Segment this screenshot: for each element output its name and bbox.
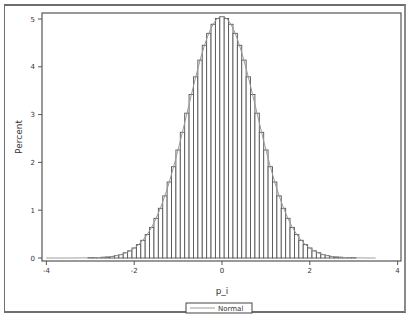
- histogram-bar: [176, 150, 180, 258]
- histogram-bar: [233, 33, 237, 258]
- histogram-bar: [211, 24, 215, 258]
- histogram-bar: [202, 45, 206, 258]
- histogram-bar: [136, 245, 140, 258]
- x-axis-label: p_i: [216, 286, 229, 296]
- x-tick-label: 2: [308, 267, 312, 275]
- y-axis-ticks: 012345: [31, 16, 42, 263]
- histogram-bar: [215, 19, 219, 258]
- histogram-bar: [224, 19, 228, 258]
- x-tick-label: -4: [43, 267, 51, 275]
- histogram-bar: [237, 45, 241, 258]
- histogram-bar: [290, 227, 294, 258]
- histogram-bar: [286, 218, 290, 258]
- histogram-bar: [150, 227, 154, 258]
- histogram-bar: [277, 196, 281, 258]
- histogram-bar: [303, 245, 307, 258]
- y-tick-label: 0: [31, 255, 35, 263]
- y-axis-label: Percent: [14, 120, 24, 154]
- x-tick-label: -2: [131, 267, 138, 275]
- histogram-bar: [207, 33, 211, 258]
- histogram-bar: [172, 167, 176, 258]
- y-tick-label: 2: [31, 159, 35, 167]
- histogram-bar: [264, 150, 268, 258]
- histogram-bar: [193, 77, 197, 258]
- histogram-bar: [163, 196, 167, 258]
- histogram-bar: [251, 95, 255, 258]
- histogram-bar: [145, 235, 149, 258]
- histogram-bar: [246, 77, 250, 258]
- histogram-bar: [255, 113, 259, 258]
- histogram-bar: [281, 208, 285, 258]
- legend-label: Normal: [218, 305, 243, 313]
- histogram-bar: [220, 17, 224, 258]
- y-tick-label: 1: [31, 207, 35, 215]
- histogram-bar: [154, 218, 158, 258]
- y-tick-label: 5: [31, 16, 35, 24]
- histogram-bar: [229, 24, 233, 258]
- histogram-bar: [268, 167, 272, 258]
- histogram-bar: [180, 132, 184, 258]
- histogram-bar: [198, 60, 202, 258]
- x-tick-label: 0: [220, 267, 224, 275]
- histogram-bar: [242, 60, 246, 258]
- histogram-bar: [167, 182, 171, 258]
- histogram-bar: [259, 132, 263, 258]
- x-axis-ticks: -4-2024: [43, 261, 400, 275]
- histogram-bar: [185, 113, 189, 258]
- histogram-bar: [141, 240, 145, 258]
- histogram-bar: [294, 235, 298, 258]
- x-tick-label: 4: [395, 267, 400, 275]
- y-tick-label: 3: [31, 111, 35, 119]
- y-tick-label: 4: [31, 63, 36, 71]
- histogram-chart: 012345 -4-2024 Percent p_i Normal: [0, 0, 408, 321]
- histogram-bar: [299, 240, 303, 258]
- legend: Normal: [186, 303, 252, 313]
- histogram-bar: [272, 182, 276, 258]
- histogram-bar: [158, 208, 162, 258]
- histogram-bar: [189, 95, 193, 258]
